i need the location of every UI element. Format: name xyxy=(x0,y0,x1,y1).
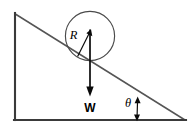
angle-label: θ xyxy=(125,96,131,110)
incline-surface-line xyxy=(15,14,186,121)
weight-label: W xyxy=(84,101,96,115)
incline-triangle xyxy=(14,13,186,120)
angle-marker xyxy=(134,97,141,122)
angle-marker-arrowhead-top xyxy=(135,97,141,104)
reaction-label: R xyxy=(69,28,78,42)
reaction-vector-shaft xyxy=(78,33,90,57)
figure-canvas: Free-body diagram of a circular body res… xyxy=(0,0,193,129)
inclined-plane-diagram: Free-body diagram of a circular body res… xyxy=(0,0,193,129)
weight-vector-arrowhead xyxy=(86,87,93,97)
